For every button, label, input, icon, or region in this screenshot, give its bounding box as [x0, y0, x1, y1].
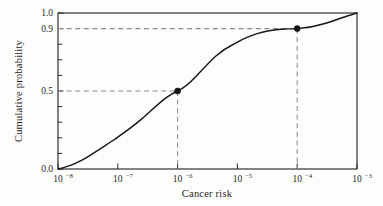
- x-tick-mantissa-1e-3: 10: [352, 174, 362, 184]
- x-tick-mantissa-1e-7: 10: [113, 174, 123, 184]
- x-tick-label-1e-8: 10 −8: [53, 172, 73, 184]
- y-tick-label-0-5: 0.5: [41, 86, 53, 96]
- guide-lines-p90: [58, 29, 297, 169]
- x-tick-exponent-1e-6: −6: [186, 172, 193, 179]
- x-axis-title: Cancer risk: [182, 188, 233, 199]
- x-tick-mantissa-1e-6: 10: [173, 174, 183, 184]
- y-tick-label-1-0: 1.0: [41, 8, 53, 18]
- y-axis-title: Cumulative probability: [13, 39, 24, 142]
- x-axis-ticks: [58, 164, 357, 170]
- x-tick-label-1e-5: 10 −5: [233, 172, 253, 184]
- x-tick-exponent-1e-5: −5: [245, 172, 252, 179]
- x-tick-mantissa-1e-4: 10: [292, 174, 302, 184]
- y-axis-minor-ticks: [58, 44, 62, 153]
- y-tick-label-0-9: 0.9: [41, 24, 53, 34]
- chart-svg: 0.0 0.5 0.9 1.0 10 −8 10 −7 10 −6 10 −5 …: [0, 0, 383, 206]
- x-tick-label-1e-6: 10 −6: [173, 172, 193, 184]
- x-tick-exponent-1e-3: −3: [365, 172, 372, 179]
- x-tick-label-1e-7: 10 −7: [113, 172, 133, 184]
- x-tick-mantissa-1e-8: 10: [53, 174, 63, 184]
- x-tick-exponent-1e-7: −7: [126, 172, 134, 179]
- y-tick-label-0-0: 0.0: [41, 164, 53, 174]
- x-tick-label-1e-3: 10 −3: [352, 172, 372, 184]
- x-tick-exponent-1e-4: −4: [305, 172, 313, 179]
- data-point-marker-p90: [294, 26, 300, 32]
- x-tick-label-1e-4: 10 −4: [292, 172, 312, 184]
- data-point-marker-median: [175, 88, 181, 94]
- figure-container: 0.0 0.5 0.9 1.0 10 −8 10 −7 10 −6 10 −5 …: [0, 0, 383, 206]
- x-tick-exponent-1e-8: −8: [66, 172, 73, 179]
- x-tick-mantissa-1e-5: 10: [233, 174, 243, 184]
